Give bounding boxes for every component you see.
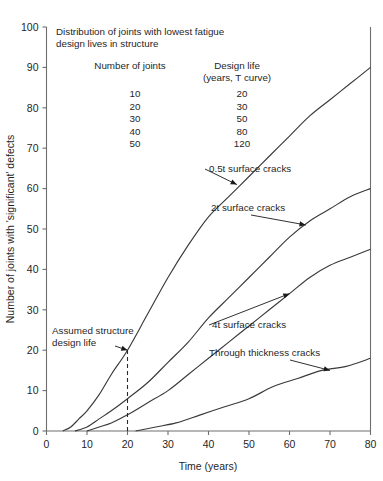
y-tick-label: 90: [27, 61, 39, 73]
x-tick-label: 0: [44, 438, 50, 450]
x-tick-label: 50: [243, 438, 255, 450]
info-box-design-life-value: 50: [237, 113, 248, 124]
x-tick-label: 60: [284, 438, 296, 450]
info-box-joints-value: 30: [130, 113, 141, 124]
info-box-title-line2: design lives in structure: [56, 38, 159, 49]
annotation-label: 2t surface cracks: [211, 202, 285, 213]
info-box-design-life-value: 120: [234, 138, 251, 149]
y-tick-label: 60: [27, 182, 39, 194]
y-tick-label: 40: [27, 263, 39, 275]
annotation-label: design life: [52, 337, 97, 348]
y-tick-label: 0: [33, 425, 39, 437]
x-tick-label: 10: [81, 438, 93, 450]
info-box-col2-header: Design life: [214, 60, 260, 71]
info-box-joints-value: 50: [130, 138, 141, 149]
info-box-joints-value: 10: [130, 88, 141, 99]
x-tick-label: 40: [203, 438, 215, 450]
chart-canvas: 0102030405060708090100 01020304050607080…: [0, 0, 383, 481]
info-box-joints-value: 40: [130, 126, 141, 137]
x-axis-title: Time (years): [179, 460, 238, 472]
y-tick-label: 100: [21, 21, 39, 33]
fatigue-defects-chart: 0102030405060708090100 01020304050607080…: [0, 0, 383, 481]
y-tick-label: 80: [27, 102, 39, 114]
info-box-joints-value: 20: [130, 101, 141, 112]
annotation-label: 0.5t surface cracks: [209, 163, 291, 174]
annotation-label: 4t surface cracks: [212, 319, 286, 330]
x-tick-label: 30: [162, 438, 174, 450]
annotation-label: Through thickness cracks: [209, 347, 320, 358]
y-tick-label: 50: [27, 223, 39, 235]
y-tick-label: 20: [27, 344, 39, 356]
x-tick-label: 20: [122, 438, 134, 450]
info-box-col2-subheader: (years, T curve): [203, 72, 271, 83]
y-tick-label: 70: [27, 142, 39, 154]
y-tick-label: 10: [27, 384, 39, 396]
x-tick-label: 70: [324, 438, 336, 450]
y-axis-title: Number of joints with 'significant' defe…: [4, 135, 16, 323]
info-box-design-life-value: 30: [237, 101, 248, 112]
info-box-design-life-value: 80: [237, 126, 248, 137]
annotation-label: Assumed structure: [52, 325, 134, 336]
info-box-col1-header: Number of joints: [94, 60, 165, 71]
info-box-title-line1: Distribution of joints with lowest fatig…: [56, 26, 225, 37]
info-box-design-life-value: 20: [237, 88, 248, 99]
x-tick-label: 80: [365, 438, 377, 450]
y-tick-label: 30: [27, 304, 39, 316]
